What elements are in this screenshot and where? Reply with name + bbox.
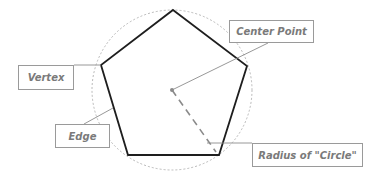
radius-label-text: Radius of "Circle" bbox=[258, 150, 357, 161]
edge-label-text: Edge bbox=[69, 131, 97, 142]
vertex-label-text: Vertex bbox=[28, 72, 65, 83]
center-point-label: Center Point bbox=[229, 20, 314, 43]
edge-leader bbox=[84, 108, 113, 124]
center-point-label-text: Center Point bbox=[236, 26, 307, 37]
center-point-leader bbox=[172, 43, 268, 90]
vertex-label: Vertex bbox=[18, 65, 74, 90]
radius-label: Radius of "Circle" bbox=[252, 143, 363, 167]
edge-label: Edge bbox=[55, 124, 110, 148]
pentagon bbox=[101, 10, 247, 155]
